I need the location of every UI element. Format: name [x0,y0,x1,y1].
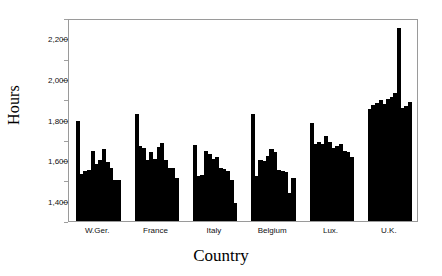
y-axis-tick-label: 1,800 [22,116,68,125]
x-axis-tick-label: W.Ger. [85,226,109,235]
y-axis-tick-label: 1,600 [22,157,68,166]
x-axis-tick-label: Italy [206,226,221,235]
bar [350,157,354,221]
y-axis-ticks: 1,4001,6001,8002,0002,200 [0,19,68,222]
x-axis-tick-label: France [143,226,168,235]
bar-group [368,20,412,221]
bar [408,102,412,221]
y-axis-minor-tick [64,222,68,223]
bar-group [76,20,120,221]
bar-group [135,20,179,221]
bar [175,178,179,221]
bar [233,203,237,221]
bar-group [310,20,354,221]
x-axis-tick-label: Belgium [258,226,287,235]
bar [291,178,295,221]
plot-inner [69,20,417,221]
bar [116,180,120,221]
bar-group [193,20,237,221]
y-axis-tick-label: 2,200 [22,35,68,44]
x-axis-tick-label: Lux. [323,226,338,235]
chart-figure: Hours 1,4001,6001,8002,0002,200 W.Ger.Fr… [0,0,442,276]
x-axis-title: Country [0,246,442,266]
y-axis-tick-label: 2,000 [22,75,68,84]
bar-group [251,20,295,221]
plot-area [68,19,418,222]
x-axis-tick-label: U.K. [381,226,397,235]
y-axis-tick-label: 1,400 [22,197,68,206]
x-axis-tick-labels: W.Ger.FranceItalyBelgiumLux.U.K. [68,226,418,242]
